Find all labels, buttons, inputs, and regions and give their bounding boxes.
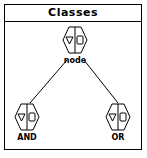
class-node-node[interactable]: node [63, 27, 87, 65]
class-diagram: node AND OR [0, 0, 147, 158]
class-node-or[interactable]: OR [106, 104, 130, 142]
edge-node-and [30, 60, 67, 103]
class-icon [15, 104, 39, 130]
edge-node-or [84, 60, 118, 103]
class-label: node [64, 56, 87, 65]
class-node-and[interactable]: AND [15, 104, 39, 142]
class-label: OR [112, 133, 125, 142]
class-icon [106, 104, 130, 130]
class-label: AND [17, 133, 37, 142]
class-icon [63, 27, 87, 53]
